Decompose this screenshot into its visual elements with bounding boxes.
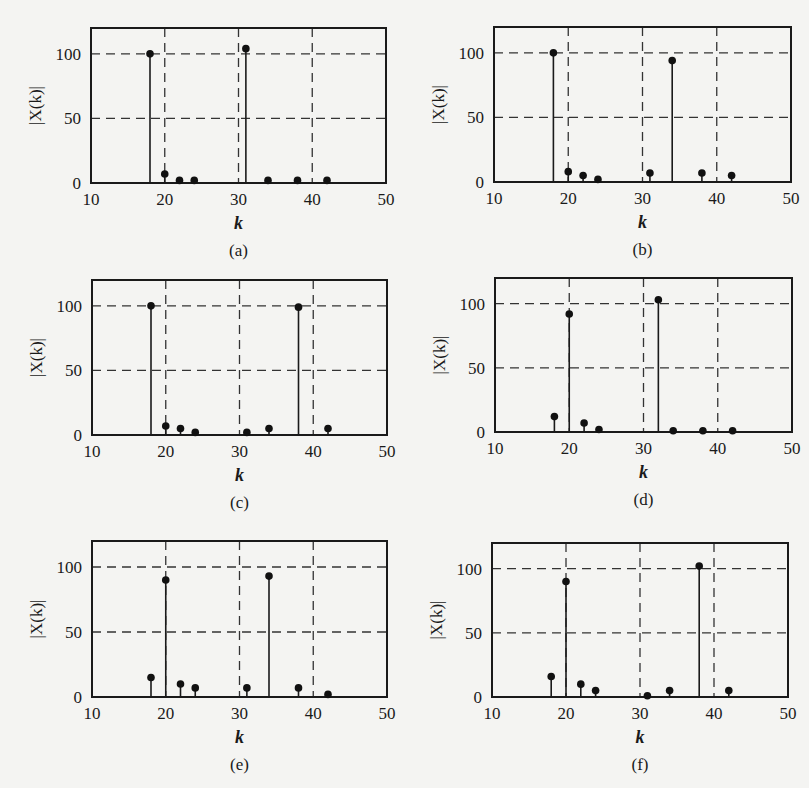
stem-marker bbox=[698, 169, 706, 177]
x-tick-label: 30 bbox=[231, 442, 248, 461]
y-tick-label: 50 bbox=[65, 361, 82, 380]
stem-marker bbox=[580, 419, 588, 427]
y-tick-label: 50 bbox=[465, 624, 482, 643]
x-axis-label: k bbox=[636, 727, 645, 747]
subplot-a: 0501001020304050|X(k)|k bbox=[11, 22, 406, 253]
stem-marker bbox=[147, 302, 155, 310]
stem-marker bbox=[264, 177, 272, 185]
stem-marker bbox=[161, 170, 169, 178]
stem-marker bbox=[550, 49, 558, 57]
stem-marker bbox=[562, 578, 570, 586]
stem-marker bbox=[577, 680, 585, 688]
subplot-caption-c: (c) bbox=[220, 493, 260, 513]
y-tick-label: 100 bbox=[457, 560, 483, 579]
stem-marker bbox=[190, 177, 198, 185]
stem-marker bbox=[177, 680, 185, 688]
stem-marker bbox=[725, 687, 733, 695]
y-axis-label: |X(k)| bbox=[27, 338, 46, 377]
stem-marker bbox=[243, 429, 251, 437]
x-tick-label: 10 bbox=[83, 190, 100, 209]
stem-marker bbox=[242, 45, 250, 53]
x-tick-label: 40 bbox=[305, 442, 322, 461]
y-tick-label: 100 bbox=[57, 297, 83, 316]
x-tick-label: 40 bbox=[708, 189, 725, 208]
x-tick-label: 10 bbox=[486, 189, 503, 208]
stem-marker bbox=[324, 691, 332, 699]
y-tick-label: 0 bbox=[74, 688, 83, 707]
stem-marker bbox=[729, 427, 737, 435]
y-axis-label: |X(k)| bbox=[429, 85, 448, 124]
stem-marker bbox=[547, 673, 555, 681]
stem-marker bbox=[295, 303, 303, 311]
subplot-b: 0501001020304050|X(k)|k bbox=[414, 21, 809, 252]
y-axis-label: |X(k)| bbox=[26, 86, 45, 125]
x-tick-label: 50 bbox=[379, 704, 396, 723]
grid-lines bbox=[92, 280, 387, 435]
stem-marker bbox=[243, 684, 251, 692]
x-tick-label: 30 bbox=[231, 704, 248, 723]
stem-marker bbox=[669, 427, 677, 435]
stem-marker bbox=[646, 169, 654, 177]
grid-lines bbox=[492, 543, 788, 697]
grid-lines bbox=[92, 541, 387, 697]
x-tick-label: 30 bbox=[230, 190, 247, 209]
subplot-caption-f: (f) bbox=[620, 755, 660, 775]
stem-marker bbox=[162, 576, 170, 584]
y-axis-label: |X(k)| bbox=[427, 601, 446, 640]
x-tick-label: 20 bbox=[157, 442, 174, 461]
x-tick-label: 50 bbox=[379, 442, 396, 461]
x-tick-label: 20 bbox=[560, 189, 577, 208]
stem-marker bbox=[191, 684, 199, 692]
x-tick-label: 10 bbox=[484, 704, 501, 723]
x-tick-label: 30 bbox=[634, 189, 651, 208]
subplot-d: 0501001020304050|X(k)|k bbox=[415, 272, 809, 502]
x-tick-label: 40 bbox=[709, 439, 726, 458]
y-tick-label: 100 bbox=[460, 295, 486, 314]
stem-marker bbox=[551, 413, 559, 421]
x-tick-label: 20 bbox=[561, 439, 578, 458]
subplot-caption-a: (a) bbox=[219, 241, 259, 261]
y-tick-label: 100 bbox=[459, 44, 485, 63]
stem-marker bbox=[564, 168, 572, 176]
x-tick-label: 20 bbox=[156, 190, 173, 209]
stem-marker bbox=[323, 177, 331, 185]
subplot-c: 0501001020304050|X(k)|k bbox=[12, 274, 407, 505]
stem-marker bbox=[177, 425, 185, 433]
stem-marker bbox=[162, 422, 170, 430]
y-axis-label: |X(k)| bbox=[27, 600, 46, 639]
x-tick-label: 30 bbox=[632, 704, 649, 723]
subplot-f: 0501001020304050|X(k)|k bbox=[412, 537, 808, 767]
stem-marker bbox=[728, 172, 736, 180]
stem-marker bbox=[644, 692, 652, 700]
y-tick-label: 0 bbox=[477, 423, 486, 442]
stem-marker bbox=[295, 684, 303, 692]
x-tick-label: 30 bbox=[635, 439, 652, 458]
subplot-caption-e: (e) bbox=[220, 755, 260, 775]
x-tick-label: 40 bbox=[305, 704, 322, 723]
stem-marker bbox=[699, 427, 707, 435]
y-tick-label: 100 bbox=[57, 558, 83, 577]
stem-marker bbox=[579, 172, 587, 180]
x-tick-label: 50 bbox=[780, 704, 797, 723]
grid-lines bbox=[495, 278, 792, 432]
y-tick-label: 100 bbox=[56, 45, 82, 64]
x-tick-label: 50 bbox=[783, 189, 800, 208]
stem-marker bbox=[595, 426, 603, 434]
x-axis-label: k bbox=[638, 212, 647, 232]
y-tick-label: 0 bbox=[474, 688, 483, 707]
x-tick-label: 10 bbox=[84, 442, 101, 461]
x-tick-label: 10 bbox=[84, 704, 101, 723]
stem-marker bbox=[191, 429, 199, 437]
y-tick-label: 0 bbox=[73, 174, 82, 193]
y-axis-label: |X(k)| bbox=[430, 336, 449, 375]
x-axis-label: k bbox=[235, 465, 244, 485]
x-axis-label: k bbox=[235, 727, 244, 747]
y-tick-label: 50 bbox=[64, 109, 81, 128]
x-axis-label: k bbox=[234, 213, 243, 233]
subplot-caption-d: (d) bbox=[624, 490, 664, 510]
stem-marker bbox=[666, 687, 674, 695]
y-tick-label: 0 bbox=[74, 426, 83, 445]
stem-marker bbox=[594, 176, 602, 184]
subplot-caption-b: (b) bbox=[623, 240, 663, 260]
stem-marker bbox=[565, 310, 573, 318]
